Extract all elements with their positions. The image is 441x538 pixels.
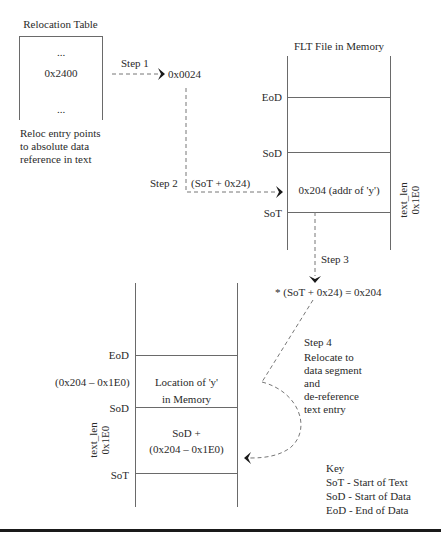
step2-arrowhead-icon [276, 186, 283, 198]
step4-arrow-diagonal [262, 300, 313, 382]
bottom-rule [0, 529, 441, 532]
step2-arrow [186, 88, 276, 192]
step1-arrowhead-icon [158, 68, 165, 80]
arrows-overlay [0, 0, 441, 538]
step4-arrow-curve [250, 382, 301, 458]
step3-arrowhead-icon [309, 276, 321, 283]
step4-arrowhead-icon [244, 452, 251, 464]
